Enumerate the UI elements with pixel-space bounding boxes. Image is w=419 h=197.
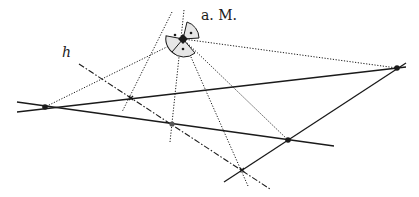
horizon-cross-2 (169, 121, 174, 126)
upper-solid-line (17, 67, 406, 112)
ray-to-right-point (183, 39, 397, 68)
ray-to-lower-right (183, 39, 288, 140)
sight-rays (45, 10, 397, 186)
lower-right-point (285, 137, 291, 143)
horizon-label: h (62, 44, 71, 60)
left-point (42, 104, 48, 110)
observer-label: a. M. (201, 7, 237, 23)
points (42, 65, 400, 143)
right-point (394, 65, 400, 71)
ray-through-cross-3 (183, 39, 248, 186)
diagonal-solid-line (224, 63, 406, 182)
solid-lines (17, 63, 406, 182)
perspective-diagram (0, 0, 419, 197)
observer-eye-icon (163, 22, 199, 57)
